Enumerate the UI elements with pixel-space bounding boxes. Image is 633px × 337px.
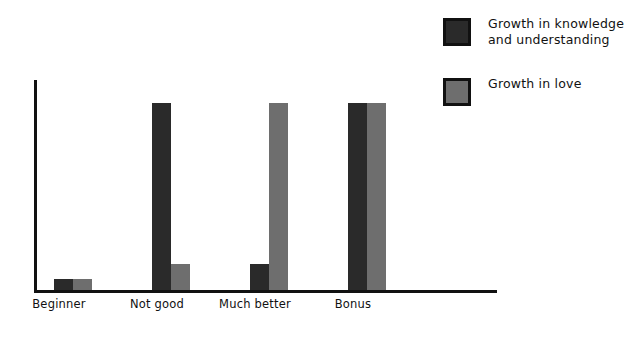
bar-group-beginner xyxy=(54,80,92,290)
plot-area xyxy=(34,80,497,290)
bar-beginner-knowledge xyxy=(54,279,73,290)
legend-item-love: Growth in love xyxy=(443,76,582,106)
bar-chart: Beginner Not good Much better Bonus Grow… xyxy=(0,0,633,337)
x-tick-label-not-good: Not good xyxy=(112,297,202,311)
bar-much-better-knowledge xyxy=(250,264,269,290)
bar-bonus-love xyxy=(367,103,386,291)
bar-much-better-love xyxy=(269,103,288,291)
bar-beginner-love xyxy=(73,279,92,290)
x-tick-label-much-better: Much better xyxy=(210,297,300,311)
legend-label-knowledge: Growth in knowledge and understanding xyxy=(488,16,624,48)
bar-not-good-love xyxy=(171,264,190,290)
x-tick-label-bonus: Bonus xyxy=(308,297,398,311)
bar-bonus-knowledge xyxy=(348,103,367,291)
bar-group-not-good xyxy=(152,80,190,290)
legend-swatch-love xyxy=(443,78,471,106)
bar-group-bonus xyxy=(348,80,386,290)
x-tick-label-beginner: Beginner xyxy=(14,297,104,311)
bar-group-much-better xyxy=(250,80,288,290)
bar-not-good-knowledge xyxy=(152,103,171,291)
legend-swatch-knowledge xyxy=(443,18,471,46)
legend-label-love: Growth in love xyxy=(488,76,582,92)
x-axis-line xyxy=(34,290,497,293)
legend-item-knowledge: Growth in knowledge and understanding xyxy=(443,16,624,48)
